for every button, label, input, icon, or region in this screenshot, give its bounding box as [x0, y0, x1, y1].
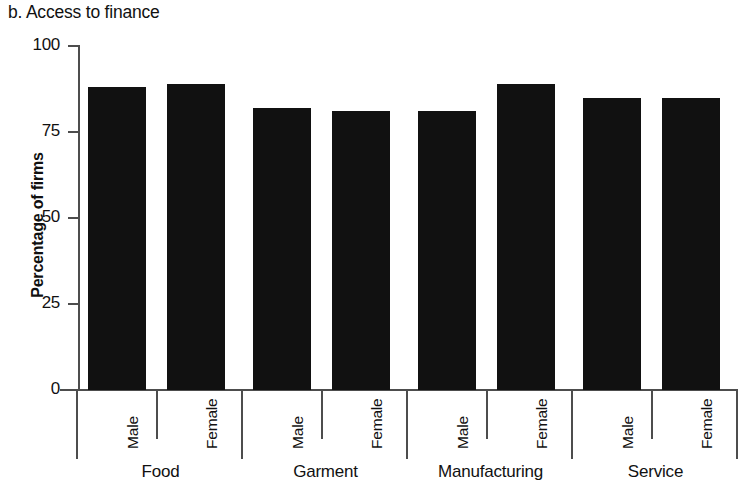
bar [662, 98, 720, 390]
bar [332, 111, 390, 390]
x-tick-label: Female [203, 399, 221, 449]
x-group-label: Manufacturing [408, 462, 573, 482]
x-inner-tick [321, 391, 323, 439]
x-tick-label: Male [124, 416, 142, 449]
x-tick-label: Male [619, 416, 637, 449]
bar [88, 87, 146, 390]
bar [253, 108, 311, 390]
chart-figure: b. Access to finance Percentage of firms… [0, 0, 745, 491]
x-tick-label: Female [533, 399, 551, 449]
x-group-separator [76, 391, 78, 459]
x-group-separator [241, 391, 243, 459]
bar [167, 84, 225, 390]
plot-area [78, 46, 738, 390]
x-group-label: Garment [243, 462, 408, 482]
x-inner-tick [651, 391, 653, 439]
y-tick-label: 50 [4, 207, 60, 227]
x-group-separator [736, 391, 738, 459]
x-tick-label: Male [454, 416, 472, 449]
x-group-separator [406, 391, 408, 459]
chart-title: b. Access to finance [8, 2, 160, 23]
bar [583, 98, 641, 390]
x-group-label: Service [573, 462, 738, 482]
x-tick-label: Female [698, 399, 716, 449]
y-tick-label: 75 [4, 121, 60, 141]
x-tick-label: Female [368, 399, 386, 449]
x-tick-label: Male [289, 416, 307, 449]
bar [497, 84, 555, 390]
x-group-label: Food [78, 462, 243, 482]
y-tick-label: 100 [4, 35, 60, 55]
bar [418, 111, 476, 390]
x-group-separator [571, 391, 573, 459]
x-inner-tick [156, 391, 158, 439]
y-tick-label: 25 [4, 293, 60, 313]
x-inner-tick [486, 391, 488, 439]
y-tick-label: 0 [4, 379, 60, 399]
